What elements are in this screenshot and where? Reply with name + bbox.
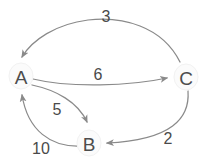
node-a-label: A — [15, 67, 28, 88]
edge-weight-b-to-a: 10 — [32, 140, 50, 157]
edge-weight-a-to-b: 5 — [53, 101, 62, 118]
node-b-label: B — [83, 134, 96, 155]
graph-svg: 3 6 5 10 2 A B — [0, 0, 207, 164]
edge-weight-a-to-c: 6 — [94, 66, 103, 83]
edge-a-to-b: 5 — [32, 85, 87, 122]
edge-b-to-a: 10 — [22, 95, 77, 157]
edge-a-to-c: 6 — [33, 66, 167, 85]
edge-path-c-to-a — [22, 19, 180, 62]
edge-weight-c-to-b: 2 — [164, 130, 173, 147]
edge-path-c-to-b — [107, 91, 188, 143]
edge-path-b-to-a — [22, 95, 77, 146]
node-c-label: C — [179, 68, 193, 89]
node-b[interactable]: B — [77, 130, 101, 156]
edge-weight-c-to-a: 3 — [102, 8, 111, 25]
node-a[interactable]: A — [9, 63, 33, 89]
edge-c-to-a: 3 — [22, 8, 180, 63]
node-c[interactable]: C — [174, 64, 198, 90]
graph-diagram: 3 6 5 10 2 A B — [0, 0, 207, 164]
edge-c-to-b: 2 — [107, 91, 188, 147]
